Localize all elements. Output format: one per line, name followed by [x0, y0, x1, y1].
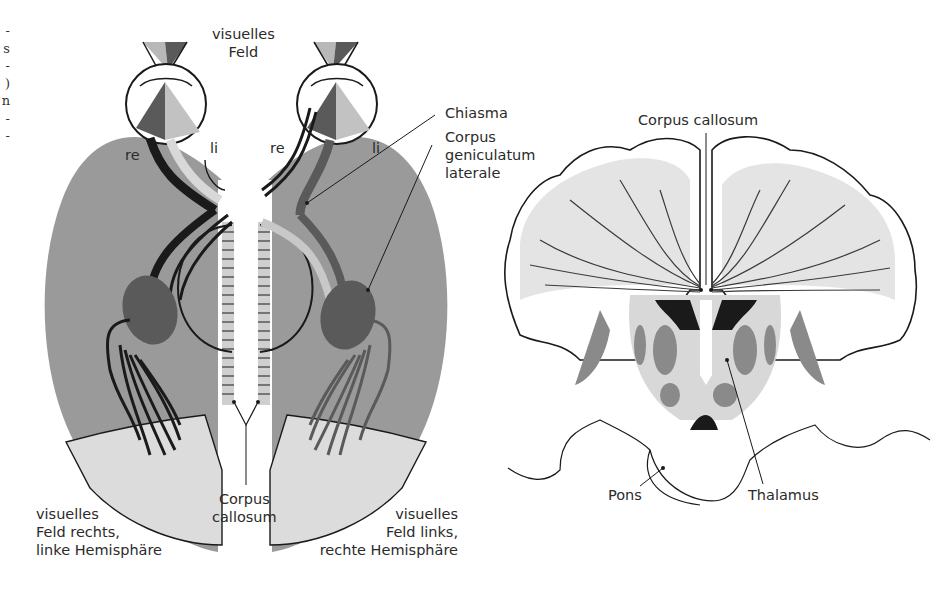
corpus-callosum-label: Corpus callosum — [212, 490, 277, 526]
right-eye-li-label: li — [372, 139, 380, 157]
label-line: Corpus — [445, 128, 535, 146]
label-line: Feld — [212, 43, 275, 61]
label-line: Feld rechts, — [36, 523, 162, 541]
label-line: geniculatum — [445, 146, 535, 164]
section-corpus-callosum-label: Corpus callosum — [638, 111, 758, 129]
label-line: visuelles — [312, 505, 458, 523]
label-line: visuelles — [36, 505, 162, 523]
label-line: rechte Hemisphäre — [312, 541, 458, 559]
visual-field-label: visuelles Feld — [212, 25, 275, 61]
pons-label: Pons — [608, 486, 642, 504]
temporal-lines — [508, 420, 930, 501]
coronal-brain-section — [505, 133, 930, 505]
label-line: Corpus — [212, 490, 277, 508]
label-line: callosum — [212, 508, 277, 526]
label-line: visuelles — [212, 25, 275, 43]
left-eye-re-label: re — [125, 146, 140, 164]
right-eye-re-label: re — [270, 139, 285, 157]
visual-pathway-diagram — [45, 42, 448, 552]
visual-field-right-label: visuelles Feld rechts, linke Hemisphäre — [36, 505, 162, 559]
visual-field-left-label: visuelles Feld links, rechte Hemisphäre — [312, 505, 458, 559]
chiasma-label: Chiasma — [445, 104, 508, 122]
label-line: laterale — [445, 164, 535, 182]
left-eye-li-label: li — [210, 139, 218, 157]
thalamus-label: Thalamus — [748, 486, 819, 504]
cgl-label: Corpus geniculatum laterale — [445, 128, 535, 182]
label-line: Feld links, — [312, 523, 458, 541]
label-line: linke Hemisphäre — [36, 541, 162, 559]
